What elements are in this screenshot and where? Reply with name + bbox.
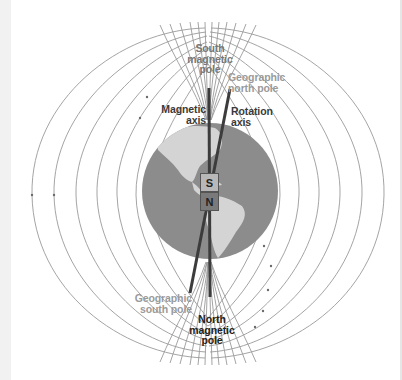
label-line: North [186, 314, 238, 325]
label-line: Geographic [228, 72, 288, 83]
label-line: south pole [130, 304, 192, 315]
magnetic-field-diagram: S N South magnetic pole Geographic north… [0, 0, 402, 380]
label-line: axis [231, 117, 283, 128]
rotation-axis-label: Rotation axis [231, 106, 283, 127]
label-line: pole [186, 335, 238, 346]
geographic-north-pole-label: Geographic north pole [228, 72, 288, 93]
label-line: axis [154, 115, 206, 126]
label-line: Magnetic [154, 104, 206, 115]
magnet-south-end: S [200, 173, 219, 192]
south-magnetic-pole-label: South magnetic pole [184, 43, 236, 75]
magnet-s-label: S [206, 177, 213, 189]
geographic-south-pole-label: Geographic south pole [130, 293, 192, 314]
magnet-n-label: N [206, 196, 214, 208]
magnetic-axis-label: Magnetic axis [154, 104, 206, 125]
magnet-north-end: N [200, 192, 219, 211]
label-line: north pole [228, 83, 288, 94]
north-magnetic-pole-label: North magnetic pole [186, 314, 238, 346]
label-line: Rotation [231, 106, 283, 117]
label-line: South [184, 43, 236, 54]
label-line: Geographic [130, 293, 192, 304]
